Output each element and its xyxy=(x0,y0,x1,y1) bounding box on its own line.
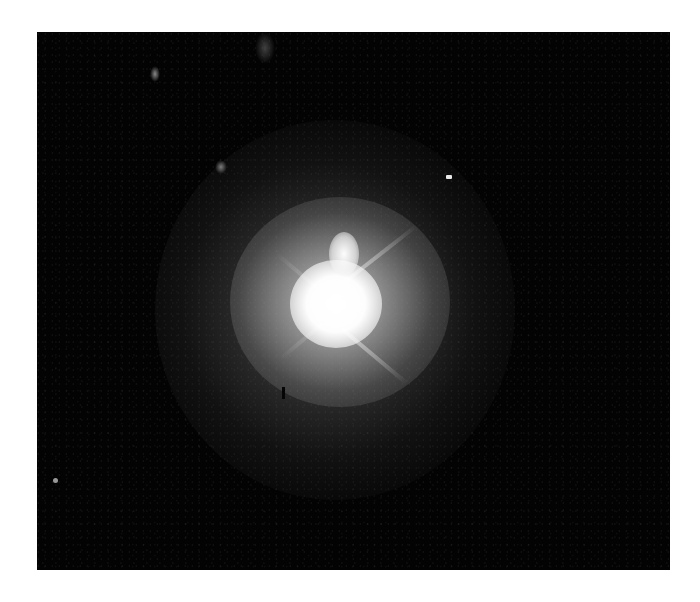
sky-noise xyxy=(37,32,670,570)
faint-source-lower-left xyxy=(53,478,58,483)
faint-source-top xyxy=(255,32,275,64)
dark-artifact xyxy=(282,387,285,399)
faint-source-upper-middle xyxy=(215,160,227,174)
page xyxy=(0,0,700,602)
faint-source-upper-left xyxy=(150,66,160,82)
astronomical-photo xyxy=(37,32,670,570)
field-star-right xyxy=(446,175,452,179)
